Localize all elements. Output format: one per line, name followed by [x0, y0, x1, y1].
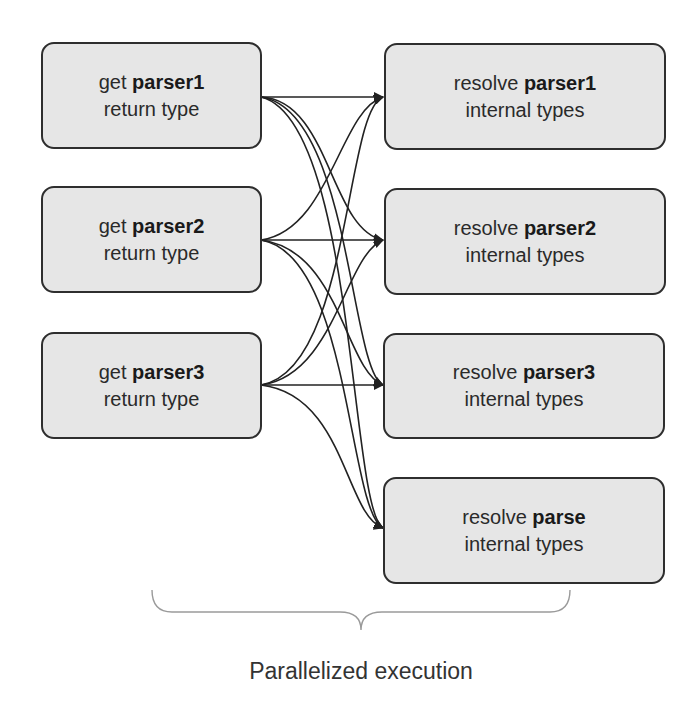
target-node-1-subtitle: internal types — [466, 97, 585, 124]
brace — [152, 590, 570, 630]
edge-s1-t3 — [261, 97, 383, 385]
target-node-3-title: resolve parser3 — [453, 359, 595, 386]
target-node-4-title: resolve parse — [462, 504, 585, 531]
target-node-2-title: resolve parser2 — [454, 215, 596, 242]
source-node-3-subtitle: return type — [104, 386, 200, 413]
source-node-3-title: get parser3 — [99, 359, 205, 386]
edge-s3-t4 — [261, 385, 383, 528]
caption: Parallelized execution — [0, 658, 698, 685]
target-node-2-subtitle: internal types — [466, 242, 585, 269]
source-node-1: get parser1 return type — [41, 42, 262, 149]
target-node-3: resolve parser3 internal types — [383, 333, 665, 439]
source-node-2: get parser2 return type — [41, 186, 262, 293]
source-node-1-title: get parser1 — [99, 69, 205, 96]
target-node-2: resolve parser2 internal types — [384, 188, 666, 295]
source-node-2-title: get parser2 — [99, 213, 205, 240]
target-node-4: resolve parse internal types — [383, 477, 665, 584]
source-node-3: get parser3 return type — [41, 332, 262, 439]
target-node-4-subtitle: internal types — [465, 531, 584, 558]
target-node-1-title: resolve parser1 — [454, 70, 596, 97]
target-node-1: resolve parser1 internal types — [384, 43, 666, 150]
source-node-1-subtitle: return type — [104, 96, 200, 123]
target-node-3-subtitle: internal types — [465, 386, 584, 413]
source-node-2-subtitle: return type — [104, 240, 200, 267]
